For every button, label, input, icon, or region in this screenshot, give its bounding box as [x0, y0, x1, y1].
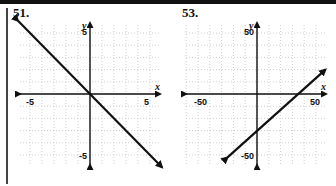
- y-min-tick: -5: [79, 151, 87, 161]
- x-max-tick: 5: [144, 97, 149, 107]
- x-max-tick: 50: [310, 97, 320, 107]
- y-min-tick: -50: [241, 151, 254, 161]
- y-max-tick: 50: [244, 27, 254, 37]
- graphs-canvas: xy-555-5 xy-505050-50: [0, 0, 336, 186]
- plotted-line: [228, 70, 326, 158]
- x-min-tick: -50: [194, 97, 207, 107]
- y-max-tick: 5: [82, 27, 87, 37]
- x-axis-label: x: [320, 81, 326, 92]
- x-axis-label: x: [154, 81, 160, 92]
- x-min-tick: -5: [26, 97, 34, 107]
- graph-51: xy-555-5: [18, 20, 162, 167]
- graph-53: xy-505050-50: [186, 20, 326, 165]
